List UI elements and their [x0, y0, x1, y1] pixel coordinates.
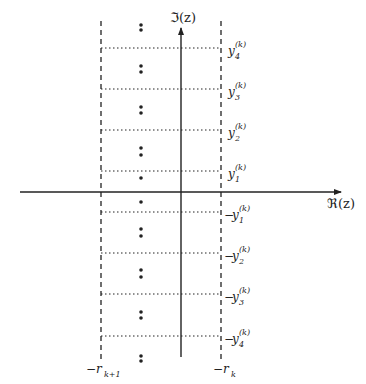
svg-text:y: y [231, 208, 239, 222]
svg-text:(k): (k) [239, 328, 250, 337]
svg-text:(k): (k) [235, 122, 246, 131]
svg-text:3: 3 [239, 298, 244, 307]
real-axis-label: ℜ(z) [327, 196, 355, 211]
point-markers [139, 23, 143, 363]
svg-text:(k): (k) [239, 286, 250, 295]
level-label-neg-y3: − y 3 (k) [224, 286, 250, 307]
svg-text:k: k [231, 370, 236, 379]
svg-text:(k): (k) [239, 245, 250, 254]
complex-plane-diagram: ℑ(z) ℜ(z) y 4 (k) y 3 (k) y 2 (k) y 1 (k… [0, 0, 366, 384]
level-label-neg-y4: − y 4 (k) [224, 328, 250, 349]
svg-text:−r: −r [86, 362, 103, 376]
left-boundary-label: −r k+1 [86, 362, 121, 379]
svg-text:y: y [227, 126, 235, 140]
right-boundary-label: −r k [213, 362, 236, 379]
level-label-y4: y 4 (k) [227, 40, 246, 61]
level-label-y2: y 2 (k) [227, 122, 246, 143]
svg-text:(k): (k) [239, 204, 250, 213]
diagram-canvas: ℑ(z) ℜ(z) y 4 (k) y 3 (k) y 2 (k) y 1 (k… [0, 0, 366, 384]
svg-text:y: y [227, 85, 235, 99]
svg-text:y: y [227, 167, 235, 181]
svg-text:4: 4 [234, 52, 240, 61]
svg-text:k+1: k+1 [104, 370, 121, 379]
level-label-y3: y 3 (k) [227, 81, 246, 102]
level-label-y1: y 1 (k) [227, 163, 246, 184]
svg-text:(k): (k) [235, 40, 246, 49]
svg-text:3: 3 [235, 93, 240, 102]
imaginary-axis-label: ℑ(z) [170, 10, 196, 25]
svg-text:2: 2 [234, 134, 240, 143]
svg-text:y: y [231, 290, 239, 304]
svg-text:4: 4 [238, 340, 244, 349]
svg-text:(k): (k) [235, 81, 246, 90]
level-label-neg-y1: − y 1 (k) [224, 204, 250, 225]
svg-text:y: y [231, 332, 239, 346]
svg-text:−r: −r [213, 362, 230, 376]
svg-text:y: y [231, 249, 239, 263]
svg-text:1: 1 [239, 216, 244, 225]
level-label-neg-y2: − y 2 (k) [224, 245, 250, 266]
svg-text:1: 1 [235, 175, 240, 184]
svg-text:(k): (k) [235, 163, 246, 172]
svg-text:2: 2 [238, 257, 244, 266]
svg-text:y: y [227, 44, 235, 58]
